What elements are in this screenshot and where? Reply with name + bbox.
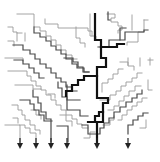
diagram-canvas <box>0 0 160 162</box>
staircase-tree-diagram <box>0 0 160 162</box>
